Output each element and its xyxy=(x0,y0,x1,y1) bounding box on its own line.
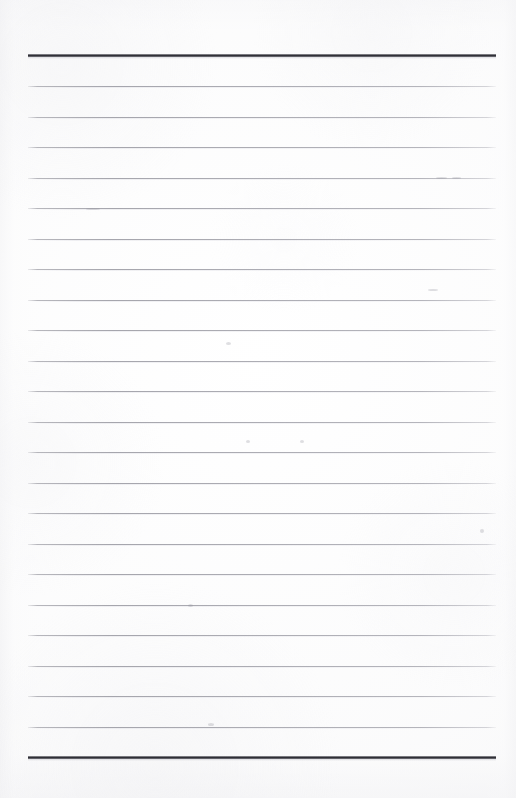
ruled-line xyxy=(28,757,496,758)
ruled-line xyxy=(28,391,496,392)
scanned-page xyxy=(0,0,516,798)
ruled-line xyxy=(28,727,496,728)
ruled-line xyxy=(28,635,496,636)
ruled-line xyxy=(28,513,496,514)
footer-rule xyxy=(28,756,496,759)
scan-blemish xyxy=(452,177,461,179)
ruled-line xyxy=(28,574,496,575)
ruled-line xyxy=(28,544,496,545)
scan-blemish xyxy=(300,440,304,443)
ruled-line xyxy=(28,483,496,484)
ruled-line xyxy=(28,269,496,270)
ruled-line xyxy=(28,300,496,301)
scan-blemish xyxy=(436,177,447,179)
scan-blemish xyxy=(188,604,193,607)
scan-blemish xyxy=(208,723,214,726)
ruled-line xyxy=(28,178,496,179)
scan-blemish xyxy=(246,440,250,443)
scan-blemish xyxy=(428,289,438,291)
scan-blemish xyxy=(480,529,484,533)
ruled-line xyxy=(28,666,496,667)
ruled-line xyxy=(28,86,496,87)
header-rule xyxy=(28,54,496,57)
ruled-line xyxy=(28,696,496,697)
scan-blemish xyxy=(86,208,100,210)
ruled-line xyxy=(28,208,496,209)
ruled-line xyxy=(28,117,496,118)
ruled-line xyxy=(28,422,496,423)
scan-blemish xyxy=(226,342,231,345)
ruled-line xyxy=(28,330,496,331)
ruled-line xyxy=(28,605,496,606)
ruled-line xyxy=(28,147,496,148)
ruled-line xyxy=(28,452,496,453)
ruled-line xyxy=(28,361,496,362)
paper-grain-texture xyxy=(0,0,516,798)
ruled-line xyxy=(28,239,496,240)
